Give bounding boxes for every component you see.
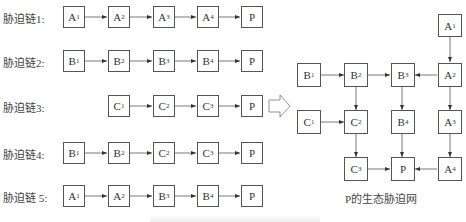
net-node-A1: A1	[438, 14, 462, 37]
net-node-A4: A4	[438, 157, 462, 181]
net-node-A2: A2	[438, 63, 462, 87]
chain2-node: B3	[153, 50, 175, 72]
chain4-node: C2	[153, 142, 175, 164]
chain4-node: P	[241, 142, 263, 164]
net-node-C2: C2	[344, 110, 368, 134]
chain5-node: A1	[63, 185, 85, 207]
chain4-node: B2	[108, 142, 130, 164]
net-node-B4: B4	[391, 110, 415, 134]
net-node-B1: B1	[297, 63, 321, 87]
chain5-node: A2	[108, 185, 130, 207]
net-node-B3: B3	[391, 63, 415, 87]
chain1-node: A4	[197, 6, 219, 28]
chain5-node: P	[241, 185, 263, 207]
figure-caption-faint	[150, 215, 320, 222]
network-title: P的生态胁迫网	[345, 190, 417, 206]
chain1-node: A2	[108, 6, 130, 28]
chain2-node: B4	[197, 50, 219, 72]
chain5-node: B4	[197, 185, 219, 207]
chain-label-2: 胁迫链2:	[3, 54, 45, 70]
chain-label-4: 胁迫链4:	[3, 146, 45, 162]
chain3-node: C1	[108, 95, 130, 117]
chain1-node: A3	[153, 6, 175, 28]
net-node-A3: A3	[438, 110, 462, 134]
chain2-node: P	[241, 50, 263, 72]
chain-label-5: 胁迫链 5:	[3, 189, 47, 205]
net-node-P: P	[391, 157, 415, 181]
chain3-node: C3	[197, 95, 219, 117]
chain1-node: P	[241, 6, 263, 28]
chain5-node: B3	[153, 185, 175, 207]
chain2-node: B1	[63, 50, 85, 72]
hollow-arrow-icon	[269, 95, 290, 117]
net-node-C3: C3	[344, 157, 368, 181]
chain-label-3: 胁迫链3:	[3, 99, 45, 115]
net-node-C1: C1	[297, 110, 321, 134]
chain3-node: P	[241, 95, 263, 117]
chain-label-1: 胁迫链1:	[3, 10, 45, 26]
chain2-node: B2	[108, 50, 130, 72]
chain4-node: B1	[63, 142, 85, 164]
chain1-node: A1	[63, 6, 85, 28]
net-node-B2: B2	[344, 63, 368, 87]
chain4-node: C3	[197, 142, 219, 164]
chain3-node: C2	[153, 95, 175, 117]
